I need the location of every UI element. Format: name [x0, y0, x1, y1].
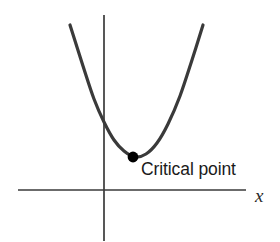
diagram-canvas [0, 0, 280, 242]
parabola-curve [70, 25, 203, 157]
x-axis-label: x [255, 186, 263, 205]
critical-point-marker [128, 152, 139, 163]
critical-point-label: Critical point [141, 161, 236, 179]
critical-point-diagram: Critical point x [0, 0, 280, 242]
